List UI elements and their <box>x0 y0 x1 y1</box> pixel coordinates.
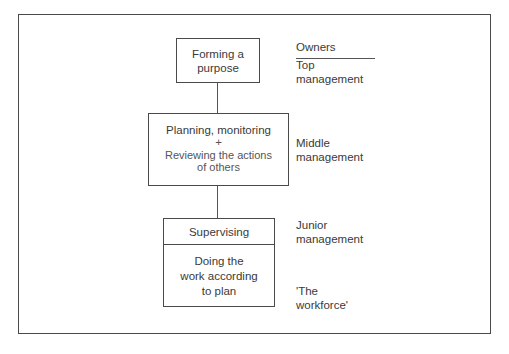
owner-label-top-management: Top management <box>296 58 363 86</box>
box-text-line: work according <box>164 269 274 284</box>
box-text-line: to plan <box>164 284 274 299</box>
owner-text-line: Top <box>296 58 363 72</box>
box-supervising-doing-work: Supervising Doing the work according to … <box>163 218 275 307</box>
owner-text-line: workforce' <box>296 298 348 312</box>
box-text-line: Doing the <box>164 254 274 269</box>
owner-label-middle-management: Middle management <box>296 136 363 164</box>
box-text-line: Supervising <box>164 225 274 239</box>
owners-header: Owners <box>296 40 375 59</box>
owner-text-line: 'The <box>296 284 348 298</box>
owner-text-line: Middle <box>296 136 363 150</box>
owner-label-workforce: 'The workforce' <box>296 284 348 312</box>
owners-header-text: Owners <box>296 41 336 53</box>
box-planning-monitoring: Planning, monitoring + Reviewing the act… <box>148 113 289 186</box>
box-text-line: Forming a <box>177 47 259 61</box>
connector-line <box>217 83 218 113</box>
box-section-supervising: Supervising <box>164 219 274 245</box>
box-forming-purpose: Forming a purpose <box>176 38 260 83</box>
box-text-line: Planning, monitoring <box>149 123 288 137</box>
owner-text-line: management <box>296 72 363 86</box>
box-text-line: purpose <box>177 61 259 75</box>
box-section-doing-work: Doing the work according to plan <box>164 245 274 299</box>
box-text-line: Reviewing the actions <box>149 148 288 162</box>
connector-line <box>217 186 218 218</box>
owner-text-line: Junior <box>296 218 363 232</box>
plus-sign: + <box>149 137 288 148</box>
owner-text-line: management <box>296 150 363 164</box>
box-text-line: of others <box>149 162 288 173</box>
owner-text-line: management <box>296 232 363 246</box>
owner-label-junior-management: Junior management <box>296 218 363 246</box>
